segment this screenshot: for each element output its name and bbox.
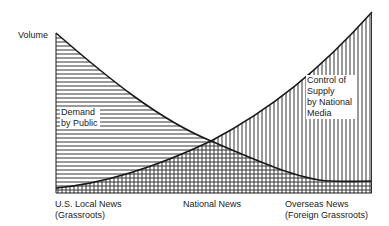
supply-label-line-2: Supply: [307, 86, 352, 97]
supply-label: Control of Supply by National Media: [306, 75, 356, 119]
y-axis-label: Volume: [18, 30, 48, 41]
supply-label-line-3: by National: [307, 97, 352, 108]
x-label-overseas-news-line-2: (Foreign Grassroots): [285, 210, 368, 221]
demand-label: Demand by Public: [60, 107, 100, 129]
demand-label-line-1: Demand: [61, 107, 98, 118]
supply-label-line-1: Control of: [307, 75, 352, 86]
supply-label-line-4: Media: [307, 108, 352, 119]
x-label-national-news-line-1: National News: [183, 199, 241, 210]
x-label-local-news-line-2: (Grassroots): [55, 210, 122, 221]
x-label-overseas-news: Overseas News (Foreign Grassroots): [285, 199, 368, 221]
demand-label-line-2: by Public: [61, 118, 98, 129]
x-label-local-news: U.S. Local News (Grassroots): [55, 199, 122, 221]
x-label-overseas-news-line-1: Overseas News: [285, 199, 368, 210]
x-label-local-news-line-1: U.S. Local News: [55, 199, 122, 210]
x-label-national-news: National News: [183, 199, 241, 210]
